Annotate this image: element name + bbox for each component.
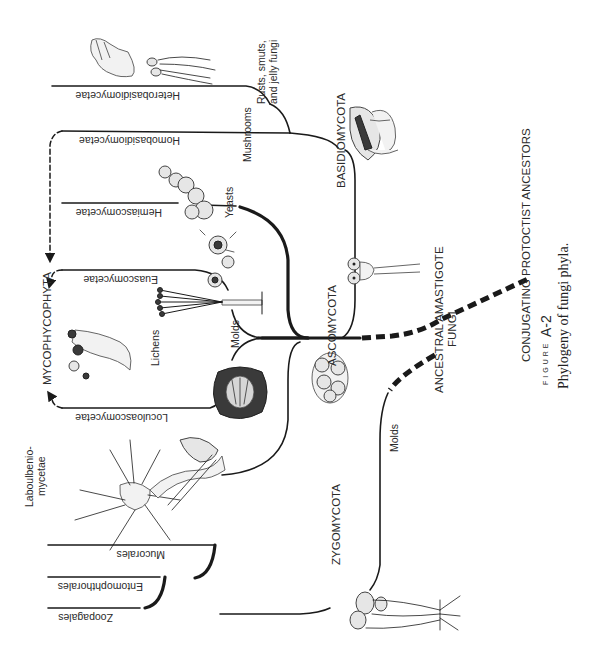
label-mycophycophyta: MYCOPHYCOPHYTA bbox=[41, 272, 53, 385]
mycophyco-dashed-loculo bbox=[50, 395, 62, 408]
entomo-curve bbox=[145, 577, 165, 608]
basidium-illustration bbox=[348, 258, 420, 284]
label-entomophthorales: Entomophthorales bbox=[58, 581, 143, 593]
label-molds-asco: Molds bbox=[229, 320, 241, 348]
laboulbenia-insect-illustration bbox=[75, 438, 225, 550]
label-laboulbeniomycetae-2: mycetae bbox=[35, 456, 47, 496]
zygo-to-mucorales bbox=[220, 608, 330, 614]
fungi-phylogeny-diagram: Heterobasidiomycetae Homobasidiomycetae … bbox=[0, 0, 603, 658]
label-basidiomycota: BASIDIOMYCOTA bbox=[335, 93, 347, 188]
lichen-illustration bbox=[68, 330, 131, 379]
label-zoopagales: Zoopagales bbox=[58, 612, 113, 624]
euasco-ascocarp-illustration bbox=[200, 230, 236, 287]
homobasidio-branch bbox=[62, 131, 290, 133]
yeast-cells-illustration bbox=[159, 166, 213, 219]
label-zygomycota: ZYGOMYCOTA bbox=[330, 484, 342, 565]
mucorales-curve bbox=[195, 545, 215, 578]
zygosporangia-illustration bbox=[350, 592, 460, 630]
figure-label-prefix: FIGURE bbox=[542, 341, 549, 385]
figure-caption-text: Phylogeny of fungi phyla. bbox=[556, 243, 571, 389]
figure-number: A-2 bbox=[538, 315, 554, 337]
mushroom-illustration bbox=[350, 107, 398, 160]
label-ascomycota: ASCOMYCOTA bbox=[326, 285, 338, 366]
label-ancestral-amastigote-2: FUNGI bbox=[446, 311, 458, 347]
label-heterobasidiomycetae: Heterobasidiomycetae bbox=[75, 90, 180, 102]
conidiophore-illustration bbox=[156, 288, 263, 317]
smut-spores-illustration bbox=[147, 57, 215, 84]
label-molds-zygo: Molds bbox=[388, 424, 400, 452]
label-homobasidiomycetae: Homobasidiomycetae bbox=[79, 135, 180, 147]
label-euascomycetae: Euascomycetae bbox=[83, 274, 158, 286]
zygo-molds-branch bbox=[370, 393, 388, 590]
label-mushrooms: Mushrooms bbox=[241, 107, 253, 162]
heterobasidio-branch bbox=[270, 104, 290, 133]
label-conjugating-ancestors: CONJUGATING PROTOCTIST ANCESTORS bbox=[520, 128, 532, 362]
loculoasco-tip bbox=[62, 395, 222, 408]
ascostroma-illustration bbox=[213, 367, 267, 419]
zygo-ancestral-dashed bbox=[390, 355, 435, 390]
label-rusts-1: Rusts, smuts, bbox=[255, 40, 267, 104]
asco-upper-branch bbox=[240, 207, 308, 338]
label-hemiascomycetae: Hemiascomycetae bbox=[75, 207, 162, 219]
label-rusts-2: and jelly fungi bbox=[267, 40, 279, 104]
label-ancestral-amastigote-1: ANCESTRAL AMASTIGOTE bbox=[433, 246, 445, 393]
illustrations bbox=[68, 39, 460, 630]
jelly-fungus-illustration bbox=[91, 39, 135, 77]
basidio-split bbox=[290, 133, 338, 148]
label-yeasts: Yeasts bbox=[223, 187, 235, 218]
mycophyco-dashed-homo bbox=[50, 131, 62, 258]
label-laboulbeniomycetae-1: Laboulbenio- bbox=[23, 446, 35, 507]
figure-caption: FIGURE A-2 Phylogeny of fungi phyla. bbox=[538, 243, 571, 389]
label-loculoascomycetae: Loculoascomycetae bbox=[75, 412, 168, 424]
label-lichens: Lichens bbox=[149, 330, 161, 366]
label-mucorales: Mucorales bbox=[117, 549, 165, 561]
